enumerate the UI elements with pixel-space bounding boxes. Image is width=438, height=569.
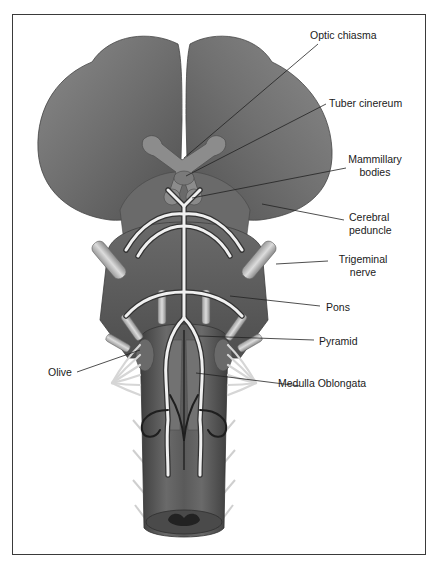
label-text: Pyramid [319,335,358,347]
label-medulla-oblongata: Medulla Oblongata [278,377,366,390]
label-text-line-2: bodies [344,166,406,179]
label-tuber-cinereum: Tuber cinereum [329,97,402,110]
label-text-line-2: peduncle [349,224,392,237]
label-text: Optic chiasma [310,29,377,41]
label-text: Tuber cinereum [329,97,402,109]
label-optic-chiasma: Optic chiasma [310,29,377,42]
brainstem-illustration [0,0,438,569]
label-olive: Olive [48,366,72,379]
label-text: Olive [48,366,72,378]
label-text-line-1: Cerebral [349,211,392,224]
label-pons: Pons [326,301,350,314]
label-text: Medulla Oblongata [278,377,366,389]
label-text: Pons [326,301,350,313]
label-trigeminal-nerve: Trigeminal nerve [334,253,392,279]
label-text-line-2: nerve [334,266,392,279]
label-mammillary-bodies: Mammillary bodies [344,153,406,179]
label-text-line-1: Mammillary [344,153,406,166]
label-pyramid: Pyramid [319,335,358,348]
label-text-line-1: Trigeminal [334,253,392,266]
label-cerebral-peduncle: Cerebral peduncle [349,211,392,237]
